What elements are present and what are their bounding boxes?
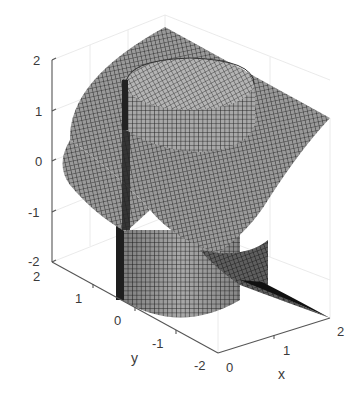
z-tick-0: 0 xyxy=(35,154,42,169)
x-axis xyxy=(218,318,330,353)
z-tick-neg1: -1 xyxy=(28,205,40,220)
y-tick-0: 0 xyxy=(114,313,121,328)
z-tick-2: 2 xyxy=(33,53,40,68)
x-tick-1: 1 xyxy=(283,343,290,358)
y-axis-label: y xyxy=(131,350,138,366)
x-tick-0: 0 xyxy=(226,360,233,375)
x-tick-2: 2 xyxy=(337,324,344,339)
z-tick-1: 1 xyxy=(35,104,42,119)
y-tick-1: 1 xyxy=(75,291,82,306)
cylinder-surface-upper xyxy=(122,58,255,152)
plot-canvas: 2 1 0 -1 -2 2 1 0 -1 -2 y 0 1 2 x xyxy=(0,0,363,401)
x-axis-label: x xyxy=(278,366,285,382)
y-tick-neg1: -1 xyxy=(152,336,164,351)
y-tick-neg2: -2 xyxy=(194,358,206,373)
z-tick-neg2: -2 xyxy=(28,254,40,269)
y-tick-2: 2 xyxy=(33,269,40,284)
figure: 2 1 0 -1 -2 2 1 0 -1 -2 y 0 1 2 x xyxy=(0,0,363,401)
